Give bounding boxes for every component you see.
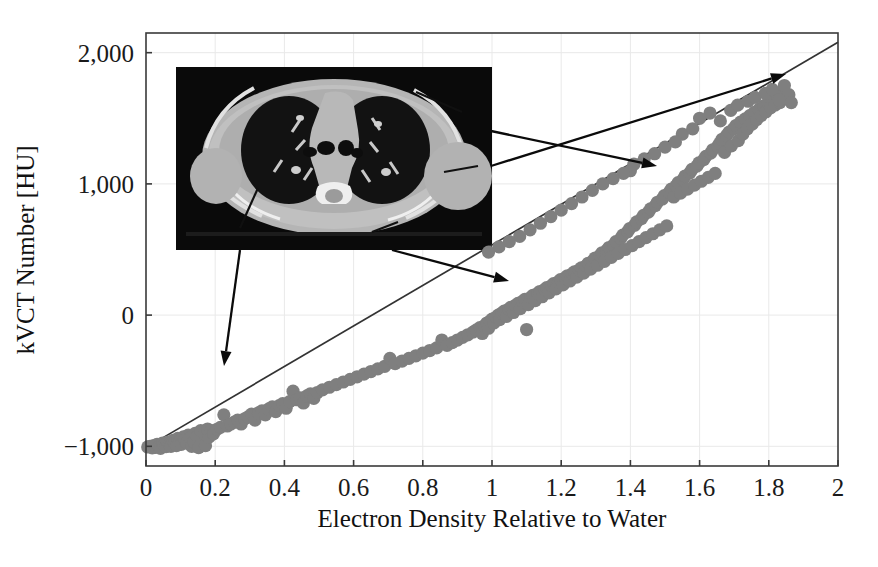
data-point xyxy=(785,96,798,109)
data-point xyxy=(660,219,673,232)
y-axis-title: kVCT Number [HU] xyxy=(12,145,39,354)
y-tick-label: 2,000 xyxy=(78,40,134,67)
x-tick-label: 1.4 xyxy=(615,474,647,501)
data-point xyxy=(773,93,786,106)
figure-root: 00.20.40.60.811.21.41.61.82 −1,00001,000… xyxy=(0,0,878,567)
x-tick-label: 1.8 xyxy=(753,474,784,501)
x-tick-label: 2 xyxy=(832,474,845,501)
data-point xyxy=(709,167,722,180)
y-tick-label: 0 xyxy=(122,302,135,329)
y-tick-labels: −1,00001,0002,000 xyxy=(64,40,134,461)
x-tick-label: 0 xyxy=(140,474,153,501)
x-tick-label: 0.6 xyxy=(338,474,369,501)
data-point xyxy=(669,135,682,148)
y-tick-label: 1,000 xyxy=(78,171,134,198)
x-tick-label: 1.2 xyxy=(546,474,577,501)
x-axis-title: Electron Density Relative to Water xyxy=(318,505,667,532)
data-point xyxy=(686,122,699,135)
data-point xyxy=(482,246,495,259)
x-tick-labels: 00.20.40.60.811.21.41.61.82 xyxy=(140,474,845,501)
arrow-lung-to-low-density-points-head xyxy=(221,350,232,366)
x-tick-label: 1 xyxy=(486,474,499,501)
y-tick-label: −1,000 xyxy=(64,433,134,460)
x-tick-label: 1.6 xyxy=(684,474,715,501)
x-tick-label: 0.4 xyxy=(269,474,301,501)
arrow-lung-to-low-density-points xyxy=(226,250,240,351)
x-tick-label: 0.2 xyxy=(200,474,231,501)
data-point xyxy=(520,323,533,336)
data-point xyxy=(714,114,727,127)
data-point xyxy=(703,106,716,119)
chart-svg: 00.20.40.60.811.21.41.61.82 −1,00001,000… xyxy=(0,0,878,567)
arrow-soft-tissue-to-mid-points-head xyxy=(493,272,509,283)
ct-chest-axial-slice-inset xyxy=(176,67,492,250)
x-tick-label: 0.8 xyxy=(407,474,438,501)
